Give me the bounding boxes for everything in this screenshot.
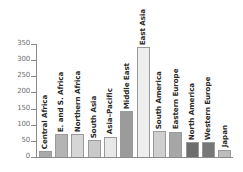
bar-category-label: Northern Africa (74, 70, 81, 131)
bar-slot: E. and S. Africa (53, 44, 69, 157)
bar-category-label: South Asia (90, 96, 97, 138)
y-axis-tick-label: 150 (4, 105, 30, 112)
y-axis-tick-label: 0 (4, 153, 30, 160)
bar[interactable] (71, 134, 84, 157)
y-axis-tick-label: 300 (4, 56, 30, 63)
bar-slot: Northern Africa (70, 44, 86, 157)
bar[interactable] (39, 151, 52, 157)
x-axis-line (36, 157, 233, 158)
bar[interactable] (153, 131, 166, 157)
bar-category-label: Asia–Pacific (106, 89, 113, 135)
bar-slot: South Asia (86, 44, 102, 157)
bar[interactable] (202, 142, 215, 157)
bar-category-label: E. and S. Africa (57, 72, 64, 132)
bar[interactable] (55, 134, 68, 157)
bar-slot: Asia–Pacific (102, 44, 118, 157)
bar-category-label: Japan (221, 125, 228, 147)
y-axis-tick-label: 100 (4, 121, 30, 128)
bar-category-label: Central Africa (41, 95, 48, 149)
bar[interactable] (104, 137, 117, 157)
bar[interactable] (218, 150, 231, 157)
bar-category-label: Western Europe (204, 77, 211, 140)
y-axis-tick-labels: 050100150200250300350 (0, 0, 30, 172)
bar-series: Central AfricaE. and S. AfricaNorthern A… (37, 44, 233, 157)
bar-category-label: Eastern Europe (172, 69, 179, 130)
bar-category-label: East Asia (139, 9, 146, 45)
bar-slot: East Asia (135, 44, 151, 157)
y-axis-tick-label: 200 (4, 88, 30, 95)
bar-category-label: North America (188, 83, 195, 140)
bar[interactable] (169, 132, 182, 158)
y-axis-tick-label: 50 (4, 137, 30, 144)
bar[interactable] (88, 140, 101, 157)
bar-slot: North America (184, 44, 200, 157)
bar-slot: Eastern Europe (168, 44, 184, 157)
bar[interactable] (186, 142, 199, 157)
bar[interactable] (120, 111, 133, 157)
bar-category-label: South America (155, 71, 162, 129)
bar[interactable] (137, 47, 150, 157)
y-axis-tick-label: 350 (4, 40, 30, 47)
bar-slot: South America (151, 44, 167, 157)
bar-slot: Western Europe (200, 44, 216, 157)
y-axis-tick-label: 250 (4, 72, 30, 79)
bar-category-label: Middle East (123, 63, 130, 109)
bar-slot: Japan (217, 44, 233, 157)
bar-slot: Middle East (119, 44, 135, 157)
bar-slot: Central Africa (37, 44, 53, 157)
bar-chart: 050100150200250300350 Central AfricaE. a… (0, 0, 243, 172)
